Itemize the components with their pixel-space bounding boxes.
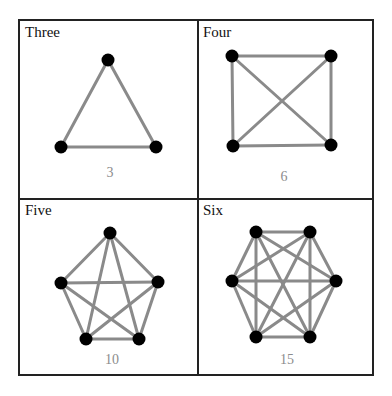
graph-vertex [152,276,165,289]
graph-vertex [325,139,338,152]
complete-graph-four: 6 [226,50,338,185]
graph-edge [61,60,108,147]
complete-graphs-drawing: 361015 [0,0,392,396]
edge-count-label: 6 [281,169,288,184]
graph-vertex [55,277,68,290]
edge-count-label: 10 [105,352,119,367]
graph-vertex [227,140,240,153]
graph-edge [108,60,156,147]
graph-vertex [250,331,263,344]
graph-vertex [133,333,146,346]
graph-vertex [330,275,343,288]
edge-count-label: 3 [107,165,114,180]
graph-vertex [104,227,117,240]
graph-vertex [55,141,68,154]
complete-graph-five: 10 [55,227,165,368]
complete-graph-six: 15 [226,226,343,368]
graph-vertex [325,50,338,63]
graph-vertex [150,141,163,154]
graph-edge [233,145,331,146]
graph-vertex [226,275,239,288]
graph-vertex [102,54,115,67]
graph-edge [232,56,233,146]
graph-vertex [80,333,93,346]
graph-vertex [304,331,317,344]
complete-graph-three: 3 [55,54,163,181]
graph-edge [61,282,158,283]
graph-vertex [304,226,317,239]
graph-vertex [226,50,239,63]
graph-vertex [250,226,263,239]
edge-count-label: 15 [280,352,294,367]
graph-edge [61,233,110,283]
